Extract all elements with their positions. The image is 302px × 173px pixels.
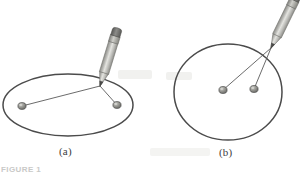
panel-b-group — [174, 0, 302, 140]
circle-curve-b — [174, 44, 282, 140]
string-a — [22, 86, 117, 106]
panel-a-group — [3, 26, 133, 136]
pencil-b — [266, 0, 302, 51]
figure-drawing — [0, 0, 302, 173]
panel-caption-b: (b) — [219, 146, 232, 158]
pencil-a — [95, 26, 122, 87]
tack-a-right — [113, 102, 121, 109]
figure-number-label: FIGURE 1 — [1, 165, 41, 173]
tack-b-left — [219, 87, 227, 94]
figure-container: (a) (b) FIGURE 1 — [0, 0, 302, 173]
panel-caption-a: (a) — [59, 145, 72, 157]
tack-a-left — [18, 103, 26, 110]
tack-b-right — [250, 86, 258, 93]
string-b-left — [223, 48, 271, 90]
